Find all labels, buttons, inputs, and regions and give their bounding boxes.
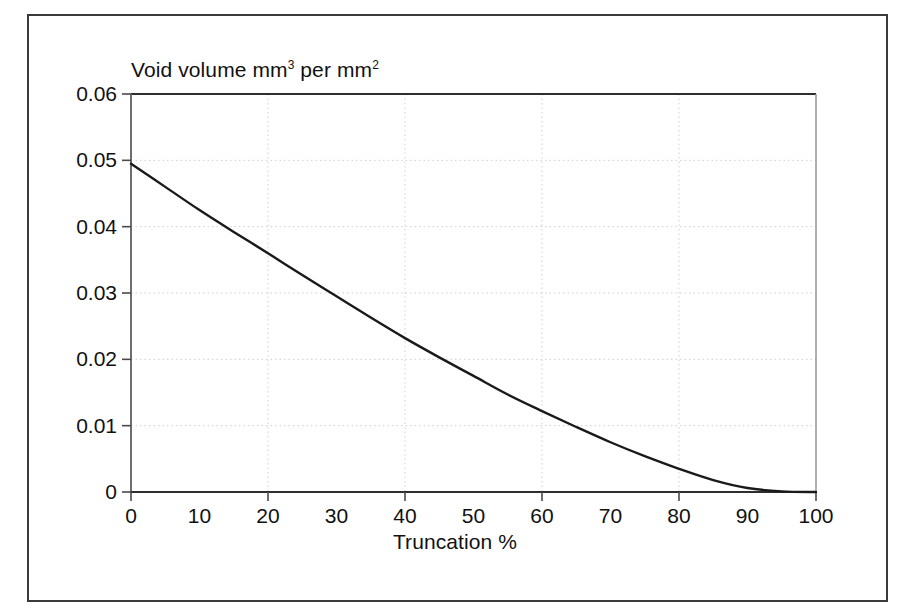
y-axis-title-exponent-2: 2 — [372, 58, 379, 72]
y-tick-label: 0.03 — [0, 281, 117, 305]
data-series-line — [131, 164, 816, 492]
x-tick-label: 30 — [325, 504, 348, 528]
x-tick-label: 100 — [798, 504, 833, 528]
x-tick-label: 90 — [736, 504, 759, 528]
chart-figure: Void volume mm3 per mm2 Truncation % 00.… — [0, 0, 910, 615]
y-tick-label: 0.02 — [0, 347, 117, 371]
x-tick-label: 80 — [667, 504, 690, 528]
x-tick-label: 20 — [256, 504, 279, 528]
y-axis-title-main: Void volume mm — [131, 58, 288, 81]
y-tick-label: 0.01 — [0, 414, 117, 438]
x-axis-ticks — [131, 492, 816, 501]
y-axis-title: Void volume mm3 per mm2 — [131, 58, 379, 82]
x-axis-title: Truncation % — [0, 530, 910, 554]
y-tick-label: 0.04 — [0, 215, 117, 239]
horizontal-gridlines — [131, 160, 816, 425]
x-tick-label: 70 — [599, 504, 622, 528]
y-axis-ticks — [122, 94, 131, 492]
y-axis-title-mid: per mm — [294, 58, 372, 81]
x-tick-label: 50 — [462, 504, 485, 528]
x-tick-label: 40 — [393, 504, 416, 528]
y-tick-label: 0.06 — [0, 82, 117, 106]
x-tick-label: 10 — [188, 504, 211, 528]
y-tick-label: 0.05 — [0, 148, 117, 172]
x-tick-label: 0 — [125, 504, 137, 528]
x-tick-label: 60 — [530, 504, 553, 528]
y-tick-label: 0 — [0, 480, 117, 504]
